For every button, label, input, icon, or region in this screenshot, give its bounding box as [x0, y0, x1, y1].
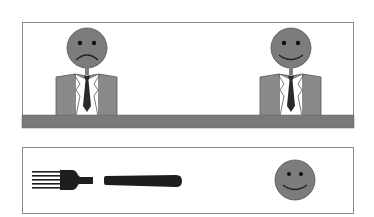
- desk: [22, 115, 354, 128]
- illustration-canvas: [0, 0, 374, 217]
- neck: [85, 67, 89, 75]
- knife-icon: [104, 175, 182, 187]
- neck: [289, 67, 293, 75]
- smiley-face-icon: [275, 160, 315, 200]
- smiling-face-icon: [271, 28, 311, 68]
- right-person-figure: [260, 28, 321, 116]
- left-person-figure: [56, 28, 117, 116]
- frowning-face-icon: [67, 28, 107, 68]
- fork-icon: [32, 170, 93, 190]
